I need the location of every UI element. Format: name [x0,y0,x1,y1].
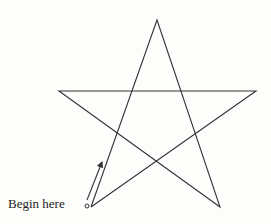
begin-here-label: Begin here [8,196,65,212]
star-outline [59,20,256,207]
start-point-marker [85,204,89,208]
pentagram-diagram [0,0,271,224]
